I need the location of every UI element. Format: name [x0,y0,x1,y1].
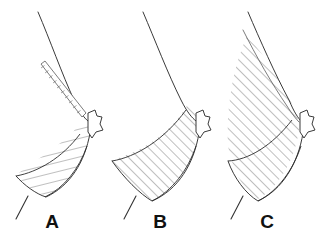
duct-strip-a [41,61,86,117]
figure-root: A B [0,0,329,236]
panel-c: C [215,0,329,236]
chest-wall-line-c [231,196,243,219]
panel-label-a: A [45,211,59,232]
panel-label-c: C [260,211,274,232]
nipple-b [196,110,211,138]
nipple-c [300,110,315,138]
chest-wall-line-b [124,196,136,219]
panel-label-b: B [153,211,167,232]
panel-a: A [0,0,110,236]
breast-diagram-figure: A B [0,0,329,236]
duct-strip-outline [41,61,86,117]
chest-wall-line-a [16,196,28,219]
panel-b: B [105,0,220,236]
nipple-a [88,110,103,138]
